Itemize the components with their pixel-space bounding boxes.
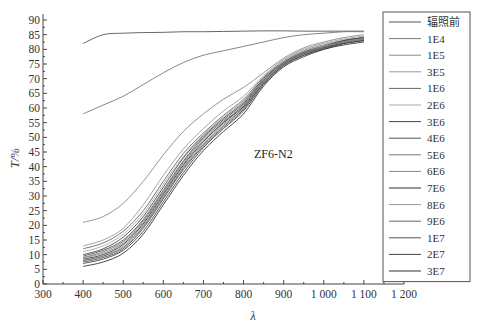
legend-item-label: 1E6 <box>427 82 445 94</box>
series-line <box>83 41 364 261</box>
y-tick-label: 15 <box>29 234 41 246</box>
series-line <box>83 38 364 255</box>
x-tick-label: 1 000 <box>311 288 337 300</box>
x-tick-label: 1 200 <box>391 288 417 300</box>
y-tick-label: 0 <box>34 278 40 290</box>
x-tick-label: 800 <box>235 288 253 300</box>
legend-item-label: 辐照前 <box>427 15 460 28</box>
x-tick-label: 600 <box>155 288 173 300</box>
legend-item-label: 1E7 <box>427 232 445 244</box>
legend-item-label: 2E6 <box>427 99 445 111</box>
y-tick-label: 5 <box>34 263 40 275</box>
series-line <box>83 41 364 262</box>
legend-item-label: 1E5 <box>427 49 445 61</box>
y-tick-label: 30 <box>29 190 41 202</box>
sample-annotation: ZF6-N2 <box>254 147 293 161</box>
y-tick-label: 20 <box>29 219 41 231</box>
y-tick-label: 90 <box>29 14 41 26</box>
x-axis-title: λ <box>249 309 255 323</box>
x-tick-label: 900 <box>275 288 293 300</box>
series-lines <box>83 31 364 267</box>
y-tick-label: 50 <box>29 131 41 143</box>
series-line <box>83 39 364 258</box>
legend: 辐照前1E41E53E51E62E63E64E65E66E67E68E69E61… <box>383 12 470 282</box>
x-tick-label: 700 <box>195 288 213 300</box>
y-tick-label: 25 <box>29 205 41 217</box>
y-tick-label: 65 <box>29 87 41 99</box>
x-tick-label: 400 <box>74 288 92 300</box>
series-line <box>83 38 364 257</box>
series-line <box>83 39 364 258</box>
series-line <box>83 36 364 246</box>
legend-item-label: 8E6 <box>427 199 445 211</box>
legend-item-label: 7E6 <box>427 182 445 194</box>
legend-item-label: 6E6 <box>427 165 445 177</box>
y-tick-label: 35 <box>29 175 41 187</box>
y-tick-label: 80 <box>29 43 41 55</box>
y-tick-label: 85 <box>29 29 41 41</box>
legend-item-label: 3E6 <box>427 116 445 128</box>
series-line <box>83 39 364 260</box>
y-tick-label: 60 <box>29 102 41 114</box>
series-line <box>83 38 364 249</box>
y-tick-label: 70 <box>29 73 41 85</box>
y-tick-label: 40 <box>29 161 41 173</box>
legend-item-label: 3E5 <box>427 66 445 78</box>
x-tick-label: 500 <box>115 288 133 300</box>
legend-item-label: 2E7 <box>427 248 445 260</box>
series-line <box>83 38 364 252</box>
legend-item-label: 1E4 <box>427 33 445 45</box>
x-tick-label: 1 100 <box>351 288 377 300</box>
y-tick-label: 75 <box>29 58 41 70</box>
transmittance-chart: 3004005006007008009001 0001 1001 2000510… <box>0 0 477 329</box>
y-tick-label: 10 <box>29 249 41 261</box>
y-tick-label: 55 <box>29 117 41 129</box>
legend-item-label: 9E6 <box>427 215 445 227</box>
series-line <box>83 31 364 44</box>
y-axis-title: T/% <box>8 148 22 168</box>
legend-item-label: 5E6 <box>427 149 445 161</box>
y-tick-label: 45 <box>29 146 41 158</box>
legend-item-label: 4E6 <box>427 132 445 144</box>
legend-item-label: 3E7 <box>427 265 445 277</box>
